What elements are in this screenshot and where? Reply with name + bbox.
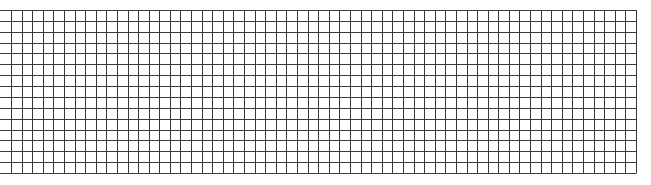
grid-lines [0, 0, 651, 185]
grid-canvas [0, 0, 651, 185]
